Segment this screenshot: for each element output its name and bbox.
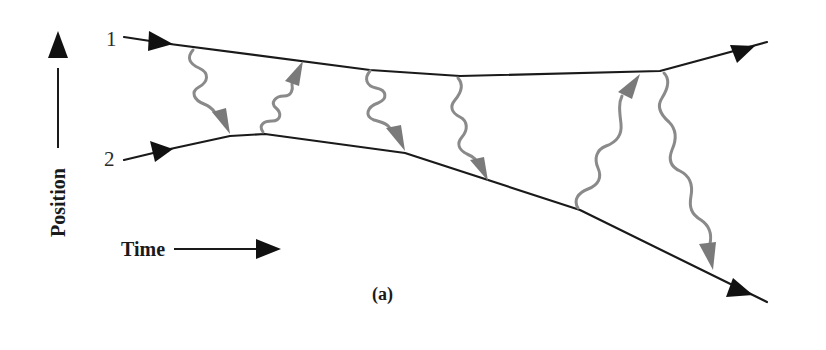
worldline-1-outgoing-arrow-icon bbox=[730, 45, 755, 63]
photon-arrowhead-icon bbox=[212, 108, 230, 134]
photon-1-to-2 bbox=[189, 50, 230, 134]
particle-1-label: 1 bbox=[106, 27, 117, 51]
position-axis-label: Position bbox=[47, 168, 69, 237]
time-axis-label: Time bbox=[121, 238, 165, 260]
photon-1-to-2 bbox=[659, 73, 716, 270]
photon-2-to-1 bbox=[576, 74, 640, 208]
photon-exchange-diagram: Position Time 1 2 bbox=[0, 0, 826, 350]
figure-caption: (a) bbox=[372, 284, 393, 305]
worldline-2-incoming-arrow-icon bbox=[150, 141, 173, 162]
time-axis-arrowhead-icon bbox=[256, 239, 281, 259]
photon-arrowhead-icon bbox=[699, 242, 716, 270]
photon-1-to-2 bbox=[452, 78, 488, 181]
worldline-1-incoming-arrow-icon bbox=[148, 31, 173, 51]
photon-arrowhead-icon bbox=[285, 61, 303, 86]
worldline-2-outgoing-arrow-icon bbox=[726, 278, 753, 297]
photon-2-to-1 bbox=[261, 61, 303, 132]
position-axis: Position bbox=[47, 31, 69, 237]
position-axis-arrowhead-icon bbox=[48, 31, 68, 58]
time-axis: Time bbox=[121, 238, 281, 260]
worldline-particle-1 bbox=[124, 31, 767, 76]
particle-2-label: 2 bbox=[104, 147, 115, 171]
photon-1-to-2 bbox=[367, 71, 405, 151]
photon-arrowhead-icon bbox=[386, 125, 405, 151]
